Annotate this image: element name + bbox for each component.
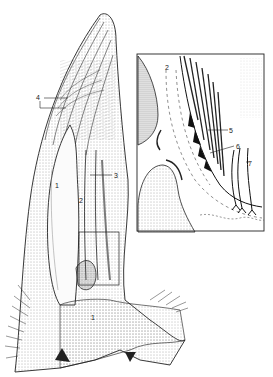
label-1-upper: 1 (55, 182, 59, 189)
label-3: 3 (114, 172, 118, 179)
label-2-inset: 2 (165, 64, 169, 71)
label-7: 7 (248, 160, 252, 167)
label-1-lower: 1 (91, 314, 95, 321)
figure-drawing (0, 0, 273, 377)
label-5: 5 (229, 127, 233, 134)
anatomical-figure: 4 3 1 2 1 2 5 6 7 (0, 0, 273, 377)
label-6: 6 (236, 143, 240, 150)
inset-view (137, 54, 264, 232)
label-2-main: 2 (79, 197, 83, 204)
label-4: 4 (36, 94, 40, 101)
